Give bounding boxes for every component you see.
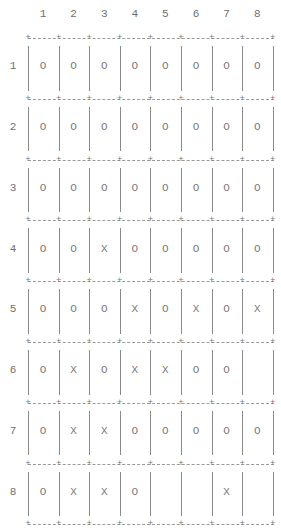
row-header: 5 <box>8 303 18 315</box>
column-header: 8 <box>242 8 272 24</box>
grid-corner: + <box>24 156 32 165</box>
grid-corner: + <box>269 156 277 165</box>
grid-cell: O <box>120 121 150 137</box>
grid-cell: O <box>59 243 89 259</box>
grid-corner: + <box>238 216 246 225</box>
grid-cell: O <box>242 243 272 259</box>
grid-cell: O <box>89 60 119 76</box>
grid-corner: + <box>55 95 63 104</box>
grid-cell: X <box>212 486 242 502</box>
grid-corner: + <box>269 399 277 408</box>
grid-corner: + <box>177 520 185 529</box>
grid-corner: + <box>269 277 277 286</box>
grid-corner: + <box>24 95 32 104</box>
grid-cell: O <box>28 60 58 76</box>
grid-corner: + <box>177 156 185 165</box>
grid-corner: + <box>269 338 277 347</box>
grid-corner: + <box>238 460 246 469</box>
grid-corner: + <box>146 156 154 165</box>
grid-corner: + <box>85 156 93 165</box>
grid-corner: + <box>208 34 216 43</box>
grid-corner: + <box>269 95 277 104</box>
grid-cell: O <box>28 486 58 502</box>
grid-cell: O <box>120 425 150 441</box>
grid-cell: O <box>59 60 89 76</box>
grid-corner: + <box>208 156 216 165</box>
grid-cell: O <box>59 303 89 319</box>
row-header: 4 <box>8 243 18 255</box>
row-header: 6 <box>8 364 18 376</box>
grid-cell: O <box>120 182 150 198</box>
grid-cell <box>242 486 272 502</box>
grid-corner: + <box>177 338 185 347</box>
grid-corner: + <box>238 277 246 286</box>
grid-cell: X <box>59 486 89 502</box>
grid-cell: O <box>28 243 58 259</box>
column-header: 3 <box>89 8 119 24</box>
grid-corner: + <box>116 216 124 225</box>
grid-cell: X <box>89 486 119 502</box>
grid-cell: O <box>242 182 272 198</box>
column-header: 4 <box>120 8 150 24</box>
grid-cell: O <box>212 425 242 441</box>
grid-corner: + <box>238 399 246 408</box>
grid-corner: + <box>55 156 63 165</box>
grid-corner: + <box>269 520 277 529</box>
grid-corner: + <box>208 520 216 529</box>
grid-cell: O <box>181 243 211 259</box>
grid-corner: + <box>55 34 63 43</box>
grid-cell: O <box>150 303 180 319</box>
grid-corner: + <box>116 520 124 529</box>
grid-cell: O <box>212 303 242 319</box>
grid-cell: X <box>89 425 119 441</box>
grid-cell: O <box>242 425 272 441</box>
grid-cell: O <box>150 60 180 76</box>
grid-cell: X <box>120 303 150 319</box>
grid-corner: + <box>146 277 154 286</box>
grid-corner: + <box>116 156 124 165</box>
grid-corner: + <box>146 34 154 43</box>
grid-cell: O <box>181 425 211 441</box>
column-separator <box>273 46 274 91</box>
grid-corner: + <box>24 520 32 529</box>
grid-corner: + <box>146 95 154 104</box>
grid-corner: + <box>55 216 63 225</box>
grid-corner: + <box>116 338 124 347</box>
grid-corner: + <box>208 399 216 408</box>
grid-cell: X <box>181 303 211 319</box>
grid-corner: + <box>177 399 185 408</box>
grid-corner: + <box>85 216 93 225</box>
grid-cell: O <box>120 60 150 76</box>
grid-cell: O <box>212 60 242 76</box>
grid-cell: O <box>150 121 180 137</box>
row-header: 3 <box>8 182 18 194</box>
grid-cell: O <box>150 425 180 441</box>
grid-cell: X <box>59 425 89 441</box>
grid-corner: + <box>24 399 32 408</box>
grid-corner: + <box>146 338 154 347</box>
grid-cell: X <box>120 364 150 380</box>
grid-cell: O <box>181 364 211 380</box>
grid-cell: X <box>242 303 272 319</box>
grid-cell: O <box>59 121 89 137</box>
grid-cell <box>150 486 180 502</box>
grid-cell: O <box>212 364 242 380</box>
grid-corner: + <box>269 460 277 469</box>
column-separator <box>273 350 274 395</box>
column-separator <box>273 411 274 456</box>
grid-corner: + <box>146 520 154 529</box>
grid-corner: + <box>146 216 154 225</box>
grid-corner: + <box>85 399 93 408</box>
grid-corner: + <box>177 216 185 225</box>
grid-corner: + <box>177 277 185 286</box>
grid-corner: + <box>116 34 124 43</box>
column-header: 6 <box>181 8 211 24</box>
grid-corner: + <box>24 34 32 43</box>
grid-cell: O <box>212 121 242 137</box>
grid-corner: + <box>208 338 216 347</box>
column-header: 2 <box>59 8 89 24</box>
grid-corner: + <box>269 216 277 225</box>
grid-corner: + <box>177 34 185 43</box>
row-header: 7 <box>8 425 18 437</box>
grid-cell: O <box>120 486 150 502</box>
